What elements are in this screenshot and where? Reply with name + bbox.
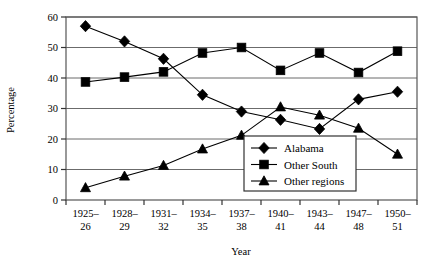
data-point-marker: [237, 43, 246, 52]
x-axis-tick-label: 1940–: [267, 208, 294, 219]
data-point-marker: [159, 68, 168, 77]
y-axis-ticks-group: 0102030405060: [48, 12, 67, 206]
x-axis-tick-label: 48: [353, 221, 364, 232]
x-axis-tick-label: 44: [314, 221, 325, 232]
data-point-marker: [276, 102, 286, 111]
x-axis-tick-label: 26: [80, 221, 91, 232]
y-axis-tick-label: 30: [48, 103, 59, 114]
line-chart: 0102030405060 1925–261928–291931–321934–…: [0, 0, 437, 260]
data-point-marker: [392, 86, 402, 97]
chart-canvas: 0102030405060 1925–261928–291931–321934–…: [0, 0, 437, 260]
x-axis-tick-label: 1934–: [189, 208, 216, 219]
data-point-marker: [354, 68, 363, 77]
data-point-marker: [120, 73, 129, 82]
y-axis-tick-label: 10: [48, 164, 59, 175]
data-point-marker: [198, 144, 208, 153]
data-point-marker: [393, 149, 403, 158]
x-axis-tick-label: 29: [119, 221, 130, 232]
y-axis-tick-label: 0: [53, 195, 58, 206]
x-axis-tick-label: 1928–: [111, 208, 138, 219]
series-line: [86, 48, 398, 82]
legend-item-label: Other regions: [284, 175, 344, 187]
data-point-marker: [275, 114, 285, 125]
x-axis-tick-label: 1947–: [345, 208, 372, 219]
data-point-marker: [314, 123, 324, 134]
data-point-marker: [315, 49, 324, 58]
data-point-marker: [236, 106, 246, 117]
legend-marker-square: [260, 160, 269, 169]
x-axis-tick-label: 35: [197, 221, 208, 232]
legend-item-label: Alabama: [284, 142, 324, 154]
x-axis-title: Year: [231, 246, 251, 257]
y-axis-tick-label: 40: [48, 73, 59, 84]
gridlines-group: [66, 17, 417, 170]
legend-item-label: Other South: [284, 159, 338, 171]
data-point-marker: [276, 66, 285, 75]
x-axis-tick-label: 38: [236, 221, 247, 232]
y-axis-tick-label: 50: [48, 42, 59, 53]
x-axis-ticks-group: 1925–261928–291931–321934–351937–381940–…: [66, 200, 417, 232]
x-axis-tick-label: 1937–: [228, 208, 255, 219]
x-axis-tick-label: 32: [158, 221, 169, 232]
data-point-marker: [81, 78, 90, 87]
x-axis-tick-label: 51: [392, 221, 403, 232]
x-axis-tick-label: 1931–: [150, 208, 177, 219]
y-axis-tick-label: 60: [48, 12, 59, 23]
data-point-marker: [159, 160, 169, 169]
x-axis-tick-label: 1943–: [306, 208, 333, 219]
data-point-marker: [198, 49, 207, 58]
data-point-marker: [119, 36, 129, 47]
data-point-marker: [353, 94, 363, 105]
data-point-marker: [80, 21, 90, 32]
x-axis-tick-label: 1950–: [384, 208, 411, 219]
x-axis-tick-label: 1925–: [72, 208, 99, 219]
y-axis-title: Percentage: [5, 87, 16, 133]
y-axis-tick-label: 20: [48, 134, 59, 145]
data-point-marker: [393, 47, 402, 56]
x-axis-tick-label: 41: [275, 221, 286, 232]
chart-legend: AlabamaOther SouthOther regions: [244, 136, 356, 191]
